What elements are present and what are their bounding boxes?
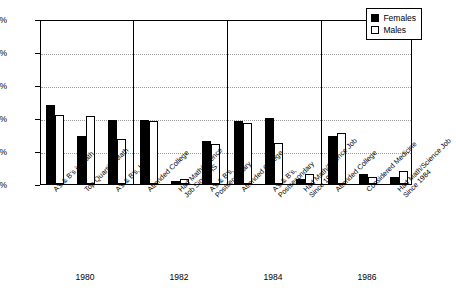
gridline (41, 120, 411, 121)
bar-females (108, 120, 117, 184)
y-axis-tick-label: 20% (0, 147, 7, 157)
y-axis-tick-mark (35, 185, 40, 186)
y-axis-tick-label: 100% (0, 15, 7, 25)
y-axis-tick-label: 60% (0, 81, 7, 91)
legend-swatch-females-icon (371, 14, 379, 22)
gridline (41, 54, 411, 55)
bar-males (55, 115, 64, 184)
bar-females (46, 105, 55, 184)
year-label-1986: 1986 (358, 272, 377, 282)
bar-females (265, 118, 274, 184)
year-label-1984: 1984 (264, 272, 283, 282)
year-label-1980: 1980 (76, 272, 95, 282)
gridline (41, 87, 411, 88)
y-axis-tick-label: 80% (0, 48, 7, 58)
legend-item-males: Males (371, 24, 416, 36)
legend: Females Males (366, 8, 422, 40)
legend-label-females: Females (383, 13, 416, 23)
bar-females (140, 120, 149, 184)
bar-females (359, 174, 368, 184)
legend-label-males: Males (383, 25, 406, 35)
legend-swatch-males-icon (371, 26, 379, 34)
group-separator (321, 21, 322, 184)
legend-item-females: Females (371, 12, 416, 24)
year-label-1982: 1982 (170, 272, 189, 282)
bar-females (390, 177, 399, 184)
y-axis-tick-label: 40% (0, 114, 7, 124)
y-axis-tick-label: 0% (0, 180, 7, 190)
group-separator (133, 21, 134, 184)
